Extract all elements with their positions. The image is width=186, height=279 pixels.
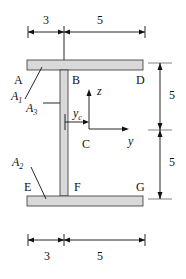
arrowhead (139, 30, 145, 35)
arrowhead (158, 63, 163, 70)
yc-label: yc (72, 106, 82, 122)
right-dim-label-lower: 5 (169, 155, 175, 169)
a1-leader (25, 67, 42, 99)
bottom-dim-label-5: 5 (97, 249, 103, 263)
arrowhead (158, 192, 163, 199)
top-dim-label-3: 3 (43, 13, 49, 27)
area-label-a3: A3 (25, 101, 37, 117)
area-label-a2: A2 (11, 155, 23, 171)
arrowhead (83, 120, 89, 125)
arrowhead (58, 30, 64, 35)
arrowhead (158, 123, 163, 130)
top-dimension: 3 5 (28, 13, 145, 38)
z-axis-arrowhead (87, 89, 92, 96)
a2-leader (31, 167, 46, 199)
arrowhead (28, 30, 34, 35)
arrowhead (139, 238, 145, 243)
area-label-a1: A1 (10, 89, 22, 105)
z-axis-label: z (96, 84, 102, 98)
y-axis-label: y (127, 134, 134, 148)
web (60, 70, 68, 196)
point-label-c: C (82, 137, 90, 151)
right-dimension: 5 5 (148, 63, 175, 199)
top-flange (27, 60, 143, 70)
y-axis-arrowhead (122, 127, 129, 132)
arrowhead (64, 30, 70, 35)
right-dim-label-upper: 5 (169, 88, 175, 102)
bottom-flange (27, 196, 143, 206)
point-label-a: A (14, 73, 23, 87)
arrowhead (58, 238, 64, 243)
point-label-g: G (136, 180, 145, 194)
point-label-b: B (72, 73, 80, 87)
arrowhead (64, 238, 70, 243)
i-beam-diagram: 3 5 A B D C E F G A1 A3 A2 yc z y 5 5 (0, 0, 186, 279)
bottom-dim-label-3: 3 (44, 249, 50, 263)
top-dim-label-5: 5 (97, 13, 103, 27)
arrowhead (158, 130, 163, 137)
bottom-dimension: 3 5 (28, 234, 145, 263)
point-label-d: D (136, 73, 145, 87)
arrowhead (28, 238, 34, 243)
point-label-f: F (74, 180, 81, 194)
point-label-e: E (24, 180, 31, 194)
